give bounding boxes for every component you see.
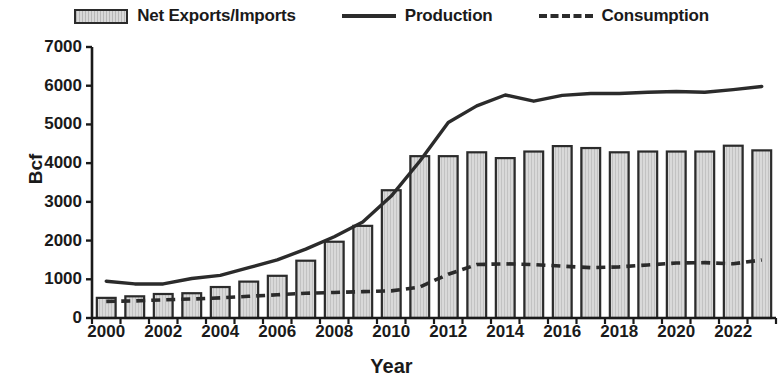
x-tick-label: 2022 [714,322,752,342]
consumption-line [106,260,762,301]
x-tick-label: 2006 [258,322,296,342]
bar [439,156,458,318]
bar [724,146,743,318]
x-tick-label: 2004 [201,322,239,342]
bar [268,276,287,318]
x-tick-label: 2000 [87,322,125,342]
bar [581,148,600,318]
x-tick-label: 2014 [486,322,524,342]
bar [154,294,173,318]
x-tick-label: 2010 [372,322,410,342]
bar [410,156,429,318]
x-tick-label: 2012 [429,322,467,342]
bar [182,293,201,318]
bar [382,190,401,318]
x-tick-label: 2002 [144,322,182,342]
bar [239,282,258,318]
bar [610,152,629,318]
x-tick-label: 2018 [600,322,638,342]
bar [667,152,686,318]
bar [467,152,486,318]
x-tick-label: 2020 [657,322,695,342]
x-axis-title: Year [0,355,783,378]
bar [353,226,372,318]
gas-chart: Net Exports/Imports Production Consumpti… [0,0,783,385]
bar [695,152,714,318]
x-tick-label: 2008 [315,322,353,342]
bar [496,158,515,318]
bar [325,242,344,318]
bar [524,152,543,318]
bar [211,287,230,318]
bar [638,152,657,318]
x-tick-label: 2016 [543,322,581,342]
production-line [106,86,762,283]
bar [553,146,572,318]
bar [296,261,315,318]
bar [752,150,771,318]
